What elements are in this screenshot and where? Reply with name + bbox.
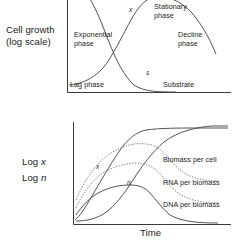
bottom-chart-ylabel-line2-var: n [41, 172, 46, 183]
bottom-chart-ylabel-line2-prefix: Log [22, 172, 41, 183]
top-chart-label-lag-phase: Lag phase [70, 80, 104, 89]
bottom-chart-series-label-biomass-per-cell: Biomass per cell [163, 155, 217, 164]
top-chart-label-decline-phase-line1: Decline [178, 30, 202, 39]
bottom-chart-curve-label-n: n [127, 178, 131, 187]
top-chart-label-substrate: Substrate [163, 80, 194, 89]
bottom-chart-series-label-rna-per-biomass: RNA per biomass [163, 178, 220, 187]
bottom-chart-group [74, 122, 232, 225]
top-chart-curve-label-s: s [146, 68, 149, 77]
top-chart-label-stationary-phase-line1: Stationary [154, 2, 187, 11]
top-chart-ylabel-line1: Cell growth [6, 24, 55, 36]
bottom-chart-series-label-dna-per-biomass: DNA per biomass [163, 200, 220, 209]
bottom-chart-ylabel-line1: Log x [22, 156, 46, 168]
top-chart-label-exponential-phase-line1: Exponential [74, 30, 112, 39]
top-chart-curve-label-x: x [129, 5, 132, 14]
top-chart-label-exponential-phase-line2: phase [74, 39, 94, 48]
top-chart-label-decline-phase-line2: phase [178, 39, 198, 48]
top-chart-ylabel-line2: (log scale) [6, 36, 51, 48]
bottom-chart-xlabel: Time [140, 227, 161, 239]
bottom-chart-curve-label-x: x [96, 162, 99, 171]
bottom-chart-ylabel-line1-var: x [41, 156, 46, 167]
bottom-chart-ylabel-line2: Log n [22, 172, 46, 184]
microbial-growth-curves-figure: Cell growth (log scale) Exponential phas… [0, 0, 232, 240]
bottom-chart-ylabel-line1-prefix: Log [22, 156, 41, 167]
top-chart-label-stationary-phase-line2: phase [154, 11, 174, 20]
bottom-chart-curve-biomass-per-cell [76, 144, 218, 200]
